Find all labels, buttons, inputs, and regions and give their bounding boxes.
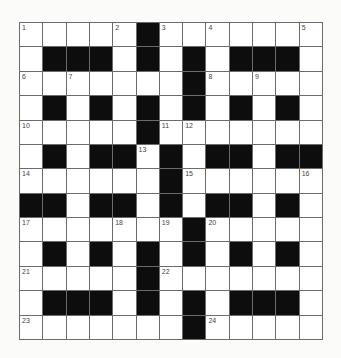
crossword-cell[interactable]: [113, 121, 135, 144]
crossword-cell[interactable]: [137, 218, 159, 241]
crossword-cell[interactable]: 14: [20, 169, 42, 192]
crossword-cell[interactable]: 17: [20, 218, 42, 241]
crossword-cell[interactable]: [20, 145, 42, 168]
crossword-cell[interactable]: [67, 218, 89, 241]
crossword-cell[interactable]: [230, 267, 252, 290]
crossword-cell[interactable]: [253, 316, 275, 339]
crossword-cell[interactable]: [20, 96, 42, 119]
crossword-cell[interactable]: [230, 169, 252, 192]
crossword-cell[interactable]: 11: [160, 121, 182, 144]
crossword-cell[interactable]: [206, 291, 228, 314]
crossword-cell[interactable]: [43, 218, 65, 241]
crossword-cell[interactable]: [300, 291, 322, 314]
crossword-cell[interactable]: [67, 267, 89, 290]
crossword-cell[interactable]: 1: [20, 23, 42, 46]
crossword-cell[interactable]: [90, 72, 112, 95]
crossword-cell[interactable]: 20: [206, 218, 228, 241]
crossword-cell[interactable]: [300, 194, 322, 217]
crossword-cell[interactable]: [253, 145, 275, 168]
crossword-cell[interactable]: [137, 194, 159, 217]
crossword-cell[interactable]: [183, 145, 205, 168]
crossword-cell[interactable]: [253, 242, 275, 265]
crossword-cell[interactable]: [160, 47, 182, 70]
crossword-cell[interactable]: [67, 316, 89, 339]
crossword-cell[interactable]: [67, 194, 89, 217]
crossword-cell[interactable]: [300, 72, 322, 95]
crossword-cell[interactable]: [43, 23, 65, 46]
crossword-cell[interactable]: [230, 121, 252, 144]
crossword-cell[interactable]: [183, 23, 205, 46]
crossword-cell[interactable]: [113, 291, 135, 314]
crossword-cell[interactable]: 21: [20, 267, 42, 290]
crossword-cell[interactable]: [113, 47, 135, 70]
crossword-cell[interactable]: 15: [183, 169, 205, 192]
crossword-cell[interactable]: [43, 72, 65, 95]
crossword-cell[interactable]: [113, 96, 135, 119]
crossword-cell[interactable]: 10: [20, 121, 42, 144]
crossword-cell[interactable]: [300, 242, 322, 265]
crossword-cell[interactable]: [90, 23, 112, 46]
crossword-cell[interactable]: [206, 96, 228, 119]
crossword-cell[interactable]: [183, 267, 205, 290]
crossword-cell[interactable]: [20, 291, 42, 314]
crossword-cell[interactable]: [137, 72, 159, 95]
crossword-cell[interactable]: [253, 23, 275, 46]
crossword-cell[interactable]: [253, 267, 275, 290]
crossword-cell[interactable]: [160, 291, 182, 314]
crossword-cell[interactable]: [113, 316, 135, 339]
crossword-cell[interactable]: [300, 267, 322, 290]
crossword-cell[interactable]: 13: [137, 145, 159, 168]
crossword-cell[interactable]: [300, 218, 322, 241]
crossword-cell[interactable]: 4: [206, 23, 228, 46]
crossword-cell[interactable]: [137, 316, 159, 339]
crossword-cell[interactable]: [90, 121, 112, 144]
crossword-cell[interactable]: 22: [160, 267, 182, 290]
crossword-cell[interactable]: [230, 316, 252, 339]
crossword-cell[interactable]: [160, 316, 182, 339]
crossword-cell[interactable]: [276, 23, 298, 46]
crossword-cell[interactable]: 6: [20, 72, 42, 95]
crossword-cell[interactable]: [67, 145, 89, 168]
crossword-cell[interactable]: [206, 242, 228, 265]
crossword-cell[interactable]: 7: [67, 72, 89, 95]
crossword-cell[interactable]: [230, 72, 252, 95]
crossword-cell[interactable]: [253, 121, 275, 144]
crossword-cell[interactable]: [90, 169, 112, 192]
crossword-cell[interactable]: [276, 218, 298, 241]
crossword-cell[interactable]: 12: [183, 121, 205, 144]
crossword-cell[interactable]: 19: [160, 218, 182, 241]
crossword-cell[interactable]: [43, 267, 65, 290]
crossword-cell[interactable]: [43, 169, 65, 192]
crossword-cell[interactable]: [160, 242, 182, 265]
crossword-cell[interactable]: [113, 72, 135, 95]
crossword-cell[interactable]: [67, 169, 89, 192]
crossword-cell[interactable]: [230, 23, 252, 46]
crossword-cell[interactable]: [90, 316, 112, 339]
crossword-cell[interactable]: [43, 316, 65, 339]
crossword-cell[interactable]: [206, 47, 228, 70]
crossword-cell[interactable]: [113, 242, 135, 265]
crossword-cell[interactable]: [276, 267, 298, 290]
crossword-cell[interactable]: [300, 96, 322, 119]
crossword-cell[interactable]: [206, 121, 228, 144]
crossword-cell[interactable]: [276, 316, 298, 339]
crossword-cell[interactable]: [253, 96, 275, 119]
crossword-cell[interactable]: [67, 23, 89, 46]
crossword-cell[interactable]: [230, 218, 252, 241]
crossword-cell[interactable]: 5: [300, 23, 322, 46]
crossword-cell[interactable]: [183, 194, 205, 217]
crossword-cell[interactable]: [160, 96, 182, 119]
crossword-cell[interactable]: [67, 242, 89, 265]
crossword-cell[interactable]: [206, 169, 228, 192]
crossword-cell[interactable]: [276, 72, 298, 95]
crossword-cell[interactable]: [20, 47, 42, 70]
crossword-cell[interactable]: [300, 316, 322, 339]
crossword-cell[interactable]: [160, 72, 182, 95]
crossword-cell[interactable]: 2: [113, 23, 135, 46]
crossword-cell[interactable]: [276, 121, 298, 144]
crossword-cell[interactable]: [137, 169, 159, 192]
crossword-cell[interactable]: [113, 267, 135, 290]
crossword-cell[interactable]: 18: [113, 218, 135, 241]
crossword-cell[interactable]: [43, 121, 65, 144]
crossword-cell[interactable]: 23: [20, 316, 42, 339]
